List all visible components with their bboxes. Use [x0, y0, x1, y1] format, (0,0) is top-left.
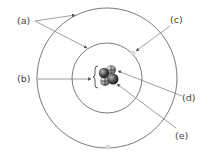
arrow-e — [117, 84, 176, 128]
inner-electron-spot — [130, 50, 135, 55]
label-c: (c) — [170, 14, 183, 25]
label-d: (d) — [182, 92, 195, 103]
arrow-a-outer — [35, 15, 75, 21]
outer-electron-spot — [105, 144, 110, 149]
label-b: (b) — [17, 73, 30, 84]
label-a: (a) — [17, 15, 30, 26]
label-e: (e) — [175, 130, 188, 141]
nucleus-bracket — [93, 66, 98, 88]
nucleus — [99, 65, 119, 86]
atom-diagram: (a) (b) (c) (d) (e) — [0, 0, 206, 157]
